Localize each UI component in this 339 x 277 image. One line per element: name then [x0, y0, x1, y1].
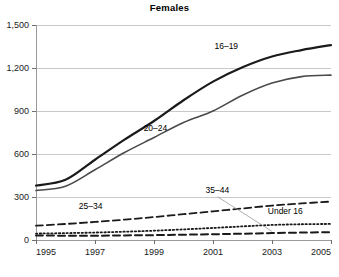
- x-tick-label-2005: 2005: [311, 247, 331, 257]
- x-tick-label-1999: 1999: [144, 247, 164, 257]
- y-tick-label-900: 900: [14, 106, 29, 116]
- y-tick-label-1500: 1,500: [6, 20, 29, 30]
- y-tick-label-1200: 1,200: [6, 63, 29, 73]
- y-tick-label-300: 300: [14, 192, 29, 202]
- y-tick-label-600: 600: [14, 149, 29, 159]
- series-label-20-24: 20–24: [144, 123, 168, 133]
- x-tick-label-1995: 1995: [36, 247, 56, 257]
- series-line-Under 16: [36, 224, 331, 234]
- x-tick-label-1997: 1997: [85, 247, 105, 257]
- x-axis-tick-labels: 199519971999200120032005: [36, 247, 331, 257]
- series-label-16-19: 16–19: [214, 41, 238, 51]
- chart-container: Females 03006009001,2001,500 19951997199…: [0, 0, 339, 277]
- series-line-35-44: [36, 232, 331, 236]
- series-label-25-34: 25–34: [79, 201, 103, 211]
- series-line-20-24: [36, 75, 331, 190]
- series-line-16-19: [36, 45, 331, 185]
- series-label-Under 16: Under 16: [268, 206, 303, 216]
- y-tick-label-0: 0: [24, 235, 29, 245]
- x-tick-label-2001: 2001: [203, 247, 223, 257]
- line-chart-plot: 03006009001,2001,500 1995199719992001200…: [0, 0, 339, 277]
- series-label-35-44: 35–44: [206, 185, 230, 195]
- y-axis-tick-labels: 03006009001,2001,500: [6, 20, 29, 245]
- x-tick-label-2003: 2003: [262, 247, 282, 257]
